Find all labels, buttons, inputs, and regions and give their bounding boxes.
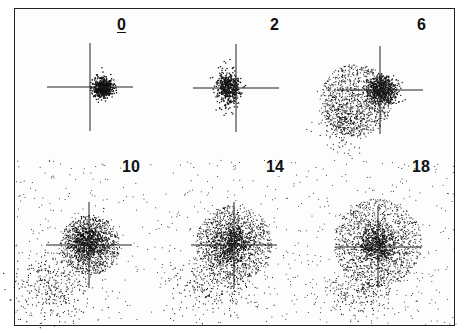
panel-label-10: 10 (122, 158, 140, 176)
scatter-density-panels (0, 0, 464, 333)
panel-label-6: 6 (417, 16, 426, 34)
panel-label-0: 0 (117, 16, 126, 34)
panel-label-2: 2 (270, 16, 279, 34)
panel-label-18: 18 (412, 158, 430, 176)
panel-label-14: 14 (266, 158, 284, 176)
